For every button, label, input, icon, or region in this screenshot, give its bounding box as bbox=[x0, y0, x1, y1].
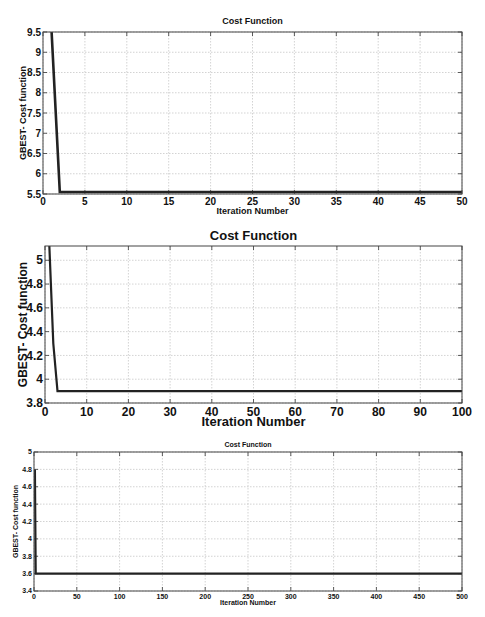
x-tick-label: 150 bbox=[157, 593, 169, 600]
y-tick-label: 4 bbox=[36, 372, 43, 386]
y-tick-label: 5 bbox=[28, 448, 32, 455]
x-tick-label: 350 bbox=[328, 593, 340, 600]
x-tick-label: 35 bbox=[331, 196, 343, 207]
y-tick-label: 4.2 bbox=[22, 518, 32, 525]
y-tick-label: 5 bbox=[36, 253, 43, 267]
y-tick-label: 4.4 bbox=[22, 501, 32, 508]
x-tick-label: 30 bbox=[289, 196, 301, 207]
x-tick-label: 30 bbox=[163, 405, 177, 419]
x-tick-label: 10 bbox=[121, 196, 133, 207]
y-axis-label: GBEST- Cost function bbox=[18, 66, 28, 160]
y-tick-label: 3.8 bbox=[26, 396, 43, 410]
y-tick-label: 5.5 bbox=[27, 189, 41, 200]
chart-title: Cost Function bbox=[210, 228, 297, 243]
x-tick-label: 100 bbox=[452, 405, 472, 419]
y-tick-label: 7.5 bbox=[27, 108, 41, 119]
x-tick-label: 80 bbox=[372, 405, 386, 419]
y-tick-label: 7 bbox=[35, 128, 41, 139]
x-tick-label: 40 bbox=[373, 196, 385, 207]
y-tick-label: 4.6 bbox=[22, 483, 32, 490]
x-tick-label: 0 bbox=[40, 196, 46, 207]
y-tick-label: 3.6 bbox=[22, 570, 32, 577]
x-axis-label: Iteration Number bbox=[216, 206, 289, 216]
x-axis-label: Iteration Number bbox=[201, 414, 305, 429]
y-tick-label: 3.4 bbox=[22, 587, 32, 594]
y-tick-label: 4.8 bbox=[22, 466, 32, 473]
y-tick-label: 6.5 bbox=[27, 148, 41, 159]
x-tick-label: 300 bbox=[285, 593, 297, 600]
y-tick-label: 9 bbox=[35, 47, 41, 58]
x-tick-label: 450 bbox=[413, 593, 425, 600]
y-tick-label: 6 bbox=[35, 168, 41, 179]
x-tick-label: 10 bbox=[80, 405, 94, 419]
x-tick-label: 5 bbox=[82, 196, 88, 207]
y-tick-label: 4 bbox=[28, 535, 32, 542]
chart-1: 051015202530354045505.566.577.588.599.5C… bbox=[18, 16, 468, 216]
figure: 051015202530354045505.566.577.588.599.5C… bbox=[0, 0, 485, 617]
x-tick-label: 90 bbox=[414, 405, 428, 419]
x-tick-label: 20 bbox=[205, 196, 217, 207]
x-tick-label: 15 bbox=[163, 196, 175, 207]
x-tick-label: 45 bbox=[415, 196, 427, 207]
x-tick-label: 70 bbox=[330, 405, 344, 419]
x-tick-label: 20 bbox=[122, 405, 136, 419]
x-axis-label: Iteration Number bbox=[220, 599, 276, 606]
x-tick-label: 400 bbox=[371, 593, 383, 600]
x-tick-label: 100 bbox=[114, 593, 126, 600]
y-axis-label: GBEST- Cost function bbox=[12, 485, 19, 558]
chart-title: Cost Function bbox=[222, 16, 283, 26]
x-tick-label: 500 bbox=[456, 593, 468, 600]
y-tick-label: 8 bbox=[35, 87, 41, 98]
y-axis-label: GBEST- Cost function bbox=[16, 262, 30, 387]
y-tick-label: 9.5 bbox=[27, 27, 41, 38]
chart-3: 0501001502002503003504004505003.43.63.84… bbox=[12, 441, 468, 606]
x-tick-label: 50 bbox=[73, 593, 81, 600]
chart-title: Cost Function bbox=[224, 441, 271, 448]
x-tick-label: 0 bbox=[32, 593, 36, 600]
y-tick-label: 3.8 bbox=[22, 553, 32, 560]
y-tick-label: 8.5 bbox=[27, 67, 41, 78]
x-tick-label: 50 bbox=[456, 196, 468, 207]
x-tick-label: 200 bbox=[199, 593, 211, 600]
chart-2: 01020304050607080901003.844.24.44.64.85C… bbox=[16, 228, 472, 429]
